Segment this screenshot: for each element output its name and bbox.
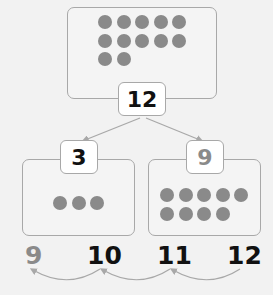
counter-dot [154, 34, 168, 48]
counter-dot [234, 188, 248, 202]
counter-dot [117, 15, 131, 29]
counter-dot [197, 188, 211, 202]
counter-dot [197, 207, 211, 221]
jump-arrow-10-to-9 [33, 269, 100, 280]
counter-dot [98, 52, 112, 66]
counter-dot [172, 15, 186, 29]
number-line-value: 9 [25, 243, 42, 268]
counter-dot [98, 15, 112, 29]
jump-arrow-12-to-11 [173, 269, 240, 280]
part-number-label-left: 3 [60, 140, 98, 174]
arrow-to-part-3 [85, 118, 140, 140]
counter-dot [72, 196, 86, 210]
number-line-value: 11 [157, 243, 192, 268]
counter-dot [179, 188, 193, 202]
counter-dot [160, 207, 174, 221]
part-number-label-right: 9 [186, 140, 224, 174]
number-line-value: 10 [87, 243, 122, 268]
counter-dot [117, 34, 131, 48]
counter-dot [98, 34, 112, 48]
jump-arrow-11-to-10 [103, 269, 170, 280]
counter-dot [154, 15, 168, 29]
whole-number-label: 12 [118, 82, 166, 116]
counter-dot [216, 207, 230, 221]
counter-dot [160, 188, 174, 202]
counter-dot [172, 34, 186, 48]
counter-dot [179, 207, 193, 221]
counter-dot [216, 188, 230, 202]
arrow-to-part-9 [146, 118, 200, 140]
number-line-value: 12 [227, 243, 262, 268]
counter-dot [117, 52, 131, 66]
counter-dot [135, 34, 149, 48]
counter-dot [90, 196, 104, 210]
counter-dot [53, 196, 67, 210]
counter-dot [135, 15, 149, 29]
